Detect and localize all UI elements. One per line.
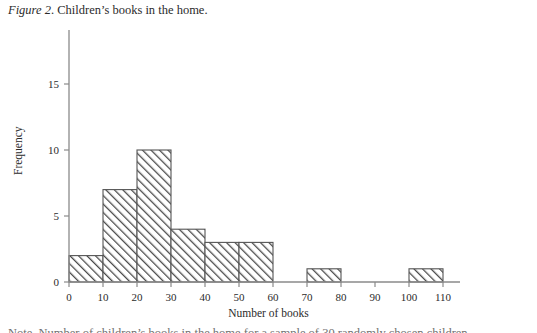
x-axis-tick-label: 30 bbox=[166, 292, 177, 303]
x-axis-tick-label: 70 bbox=[302, 292, 313, 303]
x-axis-tick-label: 40 bbox=[200, 292, 211, 303]
histogram-bar bbox=[307, 269, 341, 282]
x-axis-tick-label: 60 bbox=[268, 292, 279, 303]
y-axis-tick-label: 5 bbox=[35, 211, 59, 222]
y-axis-tick-label: 15 bbox=[35, 79, 59, 90]
bars-group bbox=[69, 150, 443, 282]
x-axis-tick-label: 50 bbox=[234, 292, 245, 303]
x-axis-tick-label: 20 bbox=[132, 292, 143, 303]
histogram-bar bbox=[205, 242, 239, 282]
x-axis-tick-label: 0 bbox=[66, 292, 72, 303]
x-axis-tick-label: 110 bbox=[435, 292, 451, 303]
histogram-plot: 0510150102030405060708090100110 Frequenc… bbox=[0, 0, 537, 333]
y-axis-title: Frequency bbox=[12, 126, 24, 175]
histogram-svg bbox=[0, 0, 537, 333]
histogram-bar bbox=[69, 256, 103, 282]
x-axis-tick-label: 100 bbox=[401, 292, 418, 303]
x-axis-title: Number of books bbox=[0, 307, 537, 320]
histogram-bar bbox=[409, 269, 443, 282]
x-axis-tick-label: 80 bbox=[336, 292, 347, 303]
x-axis-tick-label: 90 bbox=[370, 292, 381, 303]
x-axis-tick-label: 10 bbox=[98, 292, 109, 303]
histogram-bar bbox=[137, 150, 171, 282]
figure-footnote: Note. Number of children’s books in the … bbox=[8, 325, 529, 333]
histogram-bar bbox=[171, 229, 205, 282]
histogram-bar bbox=[239, 242, 273, 282]
y-axis-tick-label: 0 bbox=[35, 277, 59, 288]
histogram-bar bbox=[103, 190, 137, 282]
y-axis-tick-label: 10 bbox=[35, 145, 59, 156]
